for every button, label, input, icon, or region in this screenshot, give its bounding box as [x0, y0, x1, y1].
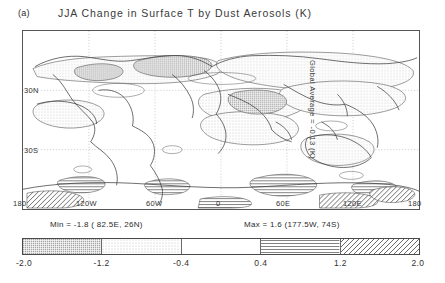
colorbar-tick-1: -1.2: [93, 258, 109, 268]
world-map-contour-plot: [23, 31, 419, 209]
colorbar-tick-2: -0.4: [173, 258, 189, 268]
x-tick-120e: 120E: [343, 199, 362, 208]
map-plot-area: [22, 30, 420, 210]
y-tick-30n: 30N: [24, 86, 39, 95]
swatch-light-stipple: [102, 239, 180, 254]
max-value-text: Max = 1.6 (177.5W, 74S): [244, 220, 340, 229]
colorbar-tick-5: 2.0: [411, 258, 424, 268]
colorbar-segment-dense-stipple: [23, 239, 101, 254]
contour-fill-negative: [33, 52, 414, 165]
colorbar-tick-3: 0.4: [254, 258, 267, 268]
swatch-horizontal-lines: [261, 239, 339, 254]
y-tick-30s: 30S: [24, 146, 38, 155]
min-value-text: Min = -1.8 ( 82.5E, 26N): [50, 220, 143, 229]
x-tick-180-east: 180: [408, 199, 421, 208]
colorbar-segment-horizontal-lines: [260, 239, 339, 254]
x-tick-0: 0: [216, 199, 220, 208]
colorbar: [22, 238, 420, 255]
x-tick-120w: 120W: [76, 199, 97, 208]
colorbar-tick-4: 1.2: [334, 258, 347, 268]
x-tick-60w: 60W: [146, 199, 162, 208]
colorbar-segment-white: [181, 239, 260, 254]
colorbar-segment-light-stipple: [101, 239, 180, 254]
swatch-dense-stipple: [23, 239, 101, 254]
figure-panel: (a) JJA Change in Surface T by Dust Aero…: [0, 0, 445, 283]
colorbar-segment-diagonal-hatch: [340, 239, 419, 254]
figure-title: JJA Change in Surface T by Dust Aerosols…: [58, 7, 312, 19]
min-max-row: Min = -1.8 ( 82.5E, 26N) Max = 1.6 (177.…: [22, 220, 420, 232]
x-tick-60e: 60E: [276, 199, 290, 208]
x-tick-180-west: 180: [13, 199, 26, 208]
swatch-diagonal-hatch: [341, 239, 419, 254]
colorbar-tick-labels: -2.0 -1.2 -0.4 0.4 1.2 2.0: [22, 258, 420, 270]
colorbar-tick-0: -2.0: [16, 258, 32, 268]
panel-label: (a): [18, 8, 30, 18]
global-average-label: Global Average = -0.13 (K): [308, 60, 317, 190]
